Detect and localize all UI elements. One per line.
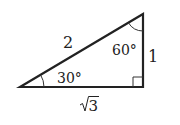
angle-30-label: 30°: [57, 70, 82, 86]
right-angle-marker: [133, 77, 143, 87]
angle-60-label: 60°: [112, 42, 137, 58]
horizontal-leg-label: 3: [80, 97, 99, 116]
triangle-diagram: 2 60° 1 30° 3: [0, 0, 180, 125]
radicand-text: 3: [89, 97, 99, 115]
angle-arc-30: [41, 75, 44, 87]
angle-arc-60: [128, 23, 143, 31]
hypotenuse-label: 2: [63, 33, 73, 52]
vertical-leg-label: 1: [148, 47, 158, 66]
